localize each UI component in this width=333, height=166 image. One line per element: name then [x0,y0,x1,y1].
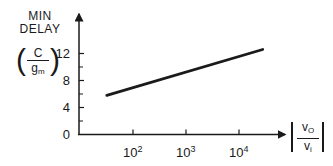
y-fraction-numerator: C [27,47,49,59]
abs-bar-left [291,122,293,152]
data-line [107,50,263,96]
y-label-fraction: C gm [27,47,49,78]
x-fraction-numerator: vO [297,121,319,137]
abs-bar-right [322,122,324,152]
y-tick-label: 12 [50,47,70,60]
x-tick-label: 104 [229,143,248,159]
x-fraction-denominator: vi [297,140,319,156]
y-tick-label: 4 [50,101,70,114]
left-paren: ( [16,45,26,75]
x-tick-label: 102 [123,143,142,159]
y-tick-label: 8 [50,74,70,87]
y-label-line-1: MIN [18,10,62,22]
y-tick-label: 0 [50,128,70,141]
x-tick-label: 103 [176,143,195,159]
y-label-line-2: DELAY [14,23,66,35]
y-fraction-denominator: gm [27,62,49,78]
x-label-fraction: vO vi [297,121,319,156]
fraction-bar [27,60,49,61]
